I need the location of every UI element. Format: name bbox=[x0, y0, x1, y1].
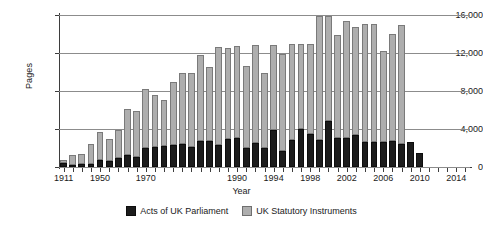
x-axis-tick-label: 2014 bbox=[436, 173, 476, 183]
bar-segment-si bbox=[115, 130, 122, 158]
bar-segment-si bbox=[225, 48, 232, 139]
bar-segment-acts bbox=[398, 144, 405, 167]
x-axis-tick-mark bbox=[328, 168, 329, 172]
bar-segment-si bbox=[380, 51, 387, 142]
bar-2003 bbox=[352, 27, 359, 167]
bar-segment-acts bbox=[152, 147, 159, 167]
x-axis-tick-mark bbox=[429, 168, 430, 172]
x-axis-tick-mark bbox=[228, 168, 229, 172]
bar-1999 bbox=[316, 16, 323, 167]
x-axis-tick-mark bbox=[301, 168, 302, 172]
bar-segment-acts bbox=[325, 121, 332, 167]
x-axis-tick-mark bbox=[374, 168, 375, 172]
x-axis-tick-mark bbox=[383, 168, 384, 172]
bar-segment-si bbox=[298, 44, 305, 129]
bar-1990 bbox=[234, 46, 241, 167]
bar-segment-si bbox=[206, 67, 213, 141]
x-axis-tick-mark bbox=[274, 168, 275, 172]
bar-segment-acts bbox=[407, 142, 414, 167]
bar-segment-si bbox=[124, 109, 131, 155]
bar-1968 bbox=[133, 111, 140, 167]
x-axis-tick-mark bbox=[402, 168, 403, 172]
chart-legend: Acts of UK Parliament UK Statutory Instr… bbox=[0, 206, 483, 216]
x-axis-tick-mark bbox=[155, 168, 156, 172]
bar-segment-acts bbox=[261, 148, 268, 167]
bar-segment-acts bbox=[206, 141, 213, 167]
x-axis-tick-mark bbox=[191, 168, 192, 172]
x-axis-tick-mark bbox=[91, 168, 92, 172]
bar-2006 bbox=[380, 51, 387, 167]
x-axis-tick-label: 2010 bbox=[400, 173, 440, 183]
bar-segment-si bbox=[343, 21, 350, 137]
bar-segment-acts bbox=[179, 144, 186, 167]
bar-1992 bbox=[252, 45, 259, 167]
bar-1980 bbox=[188, 73, 195, 167]
bar-segment-acts bbox=[362, 142, 369, 167]
bar-segment-si bbox=[362, 24, 369, 142]
bar-1965 bbox=[124, 109, 131, 167]
gridline bbox=[59, 15, 470, 16]
bar-segment-si bbox=[371, 24, 378, 142]
bar-segment-si bbox=[161, 100, 168, 146]
x-axis-tick-label: 1950 bbox=[80, 173, 120, 183]
x-axis-tick-mark bbox=[255, 168, 256, 172]
x-axis-tick-mark bbox=[265, 168, 266, 172]
bar-1986 bbox=[215, 47, 222, 167]
bar-segment-si bbox=[234, 46, 241, 137]
x-axis-tick-mark bbox=[420, 168, 421, 172]
bar-segment-acts bbox=[270, 130, 277, 167]
bar-segment-acts bbox=[234, 138, 241, 167]
x-axis-tick-mark bbox=[182, 168, 183, 172]
x-axis-tick-mark bbox=[219, 168, 220, 172]
chart-figure: Pages 04,0008,00012,00016,000 1911195019… bbox=[0, 0, 483, 232]
bar-segment-acts bbox=[88, 164, 95, 167]
bar-1984 bbox=[206, 67, 213, 167]
bar-segment-acts bbox=[352, 135, 359, 167]
bar-1911 bbox=[60, 160, 67, 167]
bar-segment-si bbox=[352, 27, 359, 135]
bar-segment-si bbox=[215, 47, 222, 144]
bar-segment-acts bbox=[106, 161, 113, 167]
bar-segment-si bbox=[179, 73, 186, 144]
bar-2000 bbox=[325, 16, 332, 167]
bar-1998 bbox=[307, 44, 314, 168]
bar-1974 bbox=[161, 100, 168, 167]
bar-1970 bbox=[142, 89, 149, 167]
bar-2001 bbox=[334, 34, 341, 167]
x-axis-tick-mark bbox=[319, 168, 320, 172]
x-axis-tick-mark bbox=[438, 168, 439, 172]
bar-segment-si bbox=[78, 154, 85, 164]
bar-segment-acts bbox=[97, 160, 104, 167]
bar-1976 bbox=[170, 82, 177, 167]
legend-entry-acts: Acts of UK Parliament bbox=[126, 206, 228, 216]
x-axis-tick-mark bbox=[465, 168, 466, 172]
bar-1982 bbox=[197, 55, 204, 167]
bar-segment-acts bbox=[389, 141, 396, 167]
x-axis-tick-mark bbox=[201, 168, 202, 172]
bar-segment-si bbox=[252, 45, 259, 143]
bar-segment-si bbox=[279, 54, 286, 152]
bar-segment-acts bbox=[279, 151, 286, 167]
bar-segment-acts bbox=[380, 142, 387, 167]
bar-segment-si bbox=[334, 35, 341, 138]
bar-segment-acts bbox=[316, 140, 323, 167]
x-axis-tick-mark bbox=[338, 168, 339, 172]
x-axis-tick-mark bbox=[292, 168, 293, 172]
bar-segment-acts bbox=[243, 148, 250, 167]
x-axis-tick-mark bbox=[210, 168, 211, 172]
x-axis-tick-label: 2006 bbox=[363, 173, 403, 183]
bar-segment-si bbox=[307, 44, 314, 135]
x-axis-tick-mark bbox=[347, 168, 348, 172]
x-axis-tick-mark bbox=[164, 168, 165, 172]
x-axis-tick-mark bbox=[356, 168, 357, 172]
x-axis-tick-mark bbox=[109, 168, 110, 172]
x-axis-tick-mark bbox=[310, 168, 311, 172]
x-axis-tick-label: 1911 bbox=[44, 173, 84, 183]
legend-label-acts: Acts of UK Parliament bbox=[140, 206, 228, 216]
x-axis-tick-mark bbox=[411, 168, 412, 172]
bar-segment-acts bbox=[170, 145, 177, 167]
bar-2005 bbox=[371, 24, 378, 167]
bar-segment-acts bbox=[307, 134, 314, 167]
bar-1996 bbox=[289, 44, 296, 167]
x-axis-tick-mark bbox=[392, 168, 393, 172]
